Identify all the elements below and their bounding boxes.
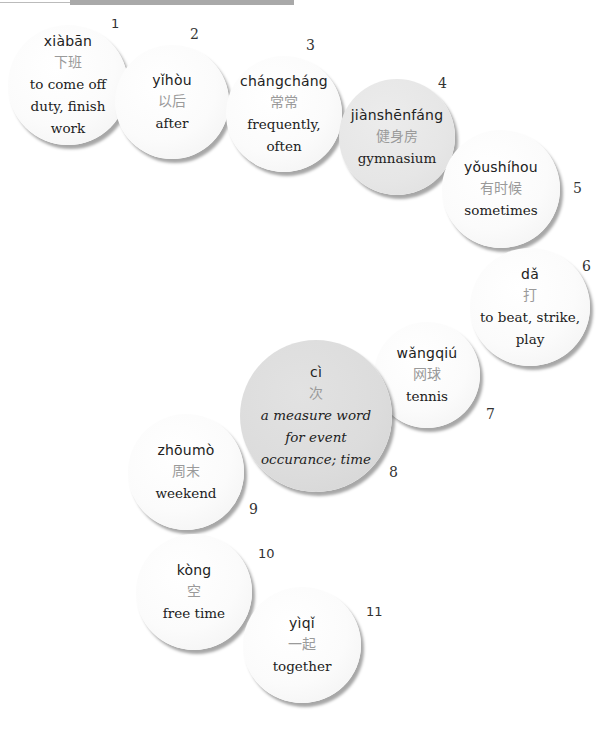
vocab-card-4: jiànshēnfáng 健身房 gymnasium	[339, 79, 455, 195]
meaning-line: work	[51, 117, 85, 139]
hanzi: 下班	[54, 51, 82, 73]
vocab-card-9: zhōumò 周末 weekend	[128, 414, 244, 530]
hanzi: 网球	[413, 363, 441, 385]
vocab-card-6: dǎ 打 to beat, strike, play	[470, 248, 590, 366]
pinyin: chángcháng	[240, 71, 328, 91]
vocab-card-10: kòng 空 free time	[136, 534, 252, 650]
pinyin: zhōumò	[157, 440, 214, 460]
item-number: 10	[258, 546, 275, 561]
vocab-card-8: cì 次 a measure word for event occurance;…	[240, 340, 392, 492]
meaning-line: free time	[163, 602, 225, 624]
pinyin: yǐhòu	[152, 70, 192, 90]
meaning-line: tennis	[406, 385, 448, 407]
meaning-line: for event	[285, 426, 347, 448]
item-number: 3	[306, 37, 315, 53]
pinyin: xiàbān	[44, 31, 92, 51]
meaning-line: weekend	[155, 482, 216, 504]
vocab-card-11: yìqǐ 一起 together	[243, 587, 361, 703]
vocab-card-3: chángcháng 常常 frequently, often	[226, 56, 342, 172]
item-number: 2	[190, 26, 199, 42]
pinyin: dǎ	[521, 264, 539, 284]
meaning-line: to come off	[30, 73, 106, 95]
meaning-line: sometimes	[464, 199, 537, 221]
hanzi: 次	[309, 382, 323, 404]
meaning-line: gymnasium	[358, 147, 437, 169]
meaning-line: occurance; time	[261, 448, 371, 470]
meaning-line: to beat, strike,	[480, 306, 580, 328]
meaning-line: play	[516, 328, 545, 350]
pinyin: yìqǐ	[289, 613, 315, 633]
item-number: 9	[249, 501, 258, 517]
item-number: 6	[582, 258, 591, 274]
pinyin: kòng	[177, 560, 212, 580]
header-rule	[0, 2, 72, 3]
pinyin: yǒushíhou	[464, 157, 538, 177]
meaning-line: duty, finish	[31, 95, 106, 117]
meaning-line: a measure word	[261, 404, 371, 426]
pinyin: jiànshēnfáng	[351, 105, 444, 125]
vocab-card-5: yǒushíhou 有时候 sometimes	[442, 130, 560, 248]
vocab-card-1: xiàbān 下班 to come off duty, finish work	[8, 25, 128, 145]
pinyin: cì	[310, 362, 322, 382]
item-number: 4	[438, 75, 447, 91]
hanzi: 空	[187, 580, 201, 602]
meaning-line: often	[266, 135, 301, 157]
item-number: 1	[111, 16, 119, 31]
meaning-line: after	[156, 112, 189, 134]
hanzi: 常常	[270, 91, 298, 113]
header-bar	[70, 0, 294, 5]
item-number: 11	[366, 604, 383, 619]
pinyin: wǎngqiú	[397, 343, 458, 363]
hanzi: 周末	[172, 460, 200, 482]
hanzi: 有时候	[480, 177, 522, 199]
hanzi: 打	[523, 284, 537, 306]
hanzi: 以后	[158, 90, 186, 112]
hanzi: 健身房	[376, 125, 418, 147]
item-number: 7	[486, 406, 495, 422]
meaning-line: together	[273, 655, 332, 677]
vocab-card-2: yǐhòu 以后 after	[115, 45, 229, 159]
hanzi: 一起	[288, 633, 316, 655]
item-number: 5	[573, 180, 582, 196]
item-number: 8	[389, 464, 398, 480]
meaning-line: frequently,	[247, 113, 320, 135]
